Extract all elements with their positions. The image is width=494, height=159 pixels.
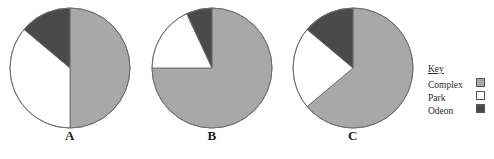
pie-chart-b-group: B <box>150 0 274 159</box>
pie-chart-figure: A B C Key Complex Park Odeon <box>0 0 494 159</box>
pie-chart-b-svg <box>150 6 274 130</box>
legend-swatch-odeon <box>476 104 485 113</box>
pie-chart-a <box>8 6 132 130</box>
legend-item-odeon: Odeon <box>428 102 492 115</box>
legend-item-park: Park <box>428 89 492 102</box>
pie-chart-a-group: A <box>8 0 132 159</box>
pie-chart-c-label: C <box>291 128 415 144</box>
pie-chart-c-group: C <box>291 0 415 159</box>
pie-chart-c <box>291 6 415 130</box>
pie-chart-c-svg <box>291 6 415 130</box>
pie-chart-a-svg <box>8 6 132 130</box>
pie-chart-a-label: A <box>8 128 132 144</box>
chart-legend: Key Complex Park Odeon <box>428 64 492 115</box>
legend-swatch-complex <box>476 78 485 87</box>
legend-label-odeon: Odeon <box>428 106 453 116</box>
pie-slice-complex <box>70 8 130 128</box>
legend-item-complex: Complex <box>428 76 492 89</box>
pie-chart-b <box>150 6 274 130</box>
legend-swatch-park <box>476 91 485 100</box>
legend-title: Key <box>428 64 492 75</box>
pie-chart-b-label: B <box>150 128 274 144</box>
